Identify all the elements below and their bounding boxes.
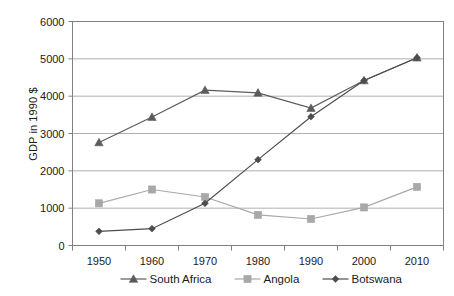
gdp-line-chart: GDP in 1990 $ 0100020003000400050006000 … — [0, 0, 454, 296]
x-tick-label: 1980 — [246, 255, 270, 267]
y-axis-tick-marks — [69, 22, 73, 246]
y-tick-label: 6000 — [40, 16, 64, 28]
x-tick-label: 1970 — [193, 255, 217, 267]
data-point-marker — [148, 186, 155, 193]
chart-plot-area: 0100020003000400050006000 19501960197019… — [0, 0, 454, 296]
legend-label: Botswana — [352, 273, 403, 285]
x-tick-label: 2000 — [352, 255, 376, 267]
x-tick-label: 1990 — [299, 255, 323, 267]
x-axis-tick-marks — [73, 246, 444, 251]
data-point-marker — [96, 228, 103, 235]
legend-marker-icon — [332, 276, 339, 283]
legend-item-south-africa[interactable]: South Africa — [121, 273, 213, 285]
data-point-marker — [148, 113, 156, 121]
data-point-marker — [149, 225, 156, 232]
series-angola — [95, 183, 420, 222]
y-tick-label: 3000 — [40, 128, 64, 140]
legend-label: South Africa — [150, 273, 213, 285]
chart-legend: South AfricaAngolaBotswana — [121, 273, 403, 285]
data-point-marker — [360, 204, 367, 211]
data-point-marker — [254, 211, 261, 218]
x-tick-label: 1950 — [87, 255, 111, 267]
y-axis-tick-labels: 0100020003000400050006000 — [40, 16, 64, 252]
legend-marker-icon — [244, 275, 251, 282]
x-tick-label: 2010 — [405, 255, 429, 267]
y-tick-label: 2000 — [40, 165, 64, 177]
series-botswana — [96, 54, 421, 234]
data-point-marker — [413, 183, 420, 190]
data-point-marker — [201, 193, 208, 200]
data-point-marker — [307, 215, 314, 222]
legend-label: Angola — [264, 273, 300, 285]
data-point-marker — [95, 138, 103, 146]
y-tick-label: 1000 — [40, 202, 64, 214]
legend-item-angola[interactable]: Angola — [235, 273, 300, 285]
series-line — [99, 58, 417, 143]
legend-item-botswana[interactable]: Botswana — [323, 273, 403, 285]
x-axis-tick-labels: 1950196019701980199020002010 — [87, 255, 429, 267]
x-tick-label: 1960 — [140, 255, 164, 267]
y-tick-label: 0 — [58, 240, 64, 252]
data-series — [95, 54, 421, 235]
data-point-marker — [95, 200, 102, 207]
y-tick-label: 4000 — [40, 90, 64, 102]
y-tick-label: 5000 — [40, 53, 64, 65]
series-south-africa — [95, 54, 421, 146]
